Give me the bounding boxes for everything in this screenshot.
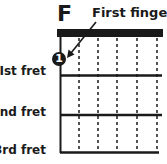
fretboard-diagram <box>0 0 167 164</box>
nut-bar <box>57 29 163 37</box>
dashed-strings <box>79 38 157 153</box>
fret-label-2: 2nd fret <box>0 106 46 118</box>
finger-marker-1: 1 <box>52 52 66 66</box>
fret-label-1: Ist fret <box>0 65 46 77</box>
arrow-icon <box>67 22 96 58</box>
fret-label-3: 3rd fret <box>0 144 46 156</box>
